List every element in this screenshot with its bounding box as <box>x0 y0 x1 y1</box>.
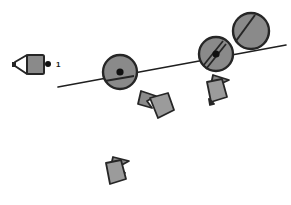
disc-upper-right-body <box>233 13 269 49</box>
wheel-right-hub <box>212 50 219 57</box>
disc-upper-right <box>233 13 269 49</box>
scene-canvas: 1 <box>0 0 291 205</box>
camera-label: 1 <box>56 60 61 69</box>
wheel-right <box>199 37 233 71</box>
camera-body <box>27 55 44 74</box>
wheel-left-hub <box>116 68 123 75</box>
scene-diagram: 1 <box>0 0 291 205</box>
camera-target-marker-dot <box>45 61 51 67</box>
wheel-left <box>103 55 137 89</box>
